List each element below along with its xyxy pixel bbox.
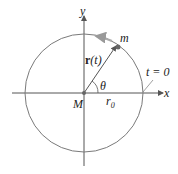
diagram-graphics bbox=[0, 0, 178, 174]
center-label: M bbox=[73, 98, 83, 110]
position-vector-label: r(t) bbox=[85, 54, 102, 66]
angle-arc bbox=[92, 81, 98, 93]
angle-label: θ bbox=[100, 80, 106, 92]
mass-point bbox=[116, 45, 121, 50]
time-zero-label: t = 0 bbox=[146, 66, 169, 78]
mass-label: m bbox=[120, 32, 129, 44]
radius-label: r0 bbox=[106, 95, 115, 110]
motion-arrow bbox=[96, 36, 112, 41]
circular-orbit-diagram: y x m r(t) θ M r0 t = 0 bbox=[0, 0, 178, 174]
t0-leader-line bbox=[143, 80, 153, 92]
center-point bbox=[82, 91, 86, 95]
x-axis-label: x bbox=[164, 87, 169, 99]
y-axis-label: y bbox=[80, 5, 85, 17]
